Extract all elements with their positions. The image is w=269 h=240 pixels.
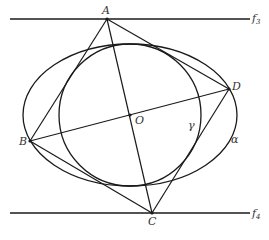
diagram-canvas: f3f4γαABCDO bbox=[0, 0, 269, 240]
line-label-f4: f4 bbox=[251, 207, 261, 221]
gamma-circle-label: γ bbox=[188, 119, 195, 132]
point-label-A: A bbox=[101, 4, 110, 17]
point-label-D: D bbox=[231, 80, 241, 93]
point-label-B: B bbox=[18, 135, 27, 148]
segment-CD bbox=[152, 89, 229, 213]
alpha-ellipse-label: α bbox=[231, 133, 239, 146]
segment-AD bbox=[107, 19, 229, 89]
point-label-O: O bbox=[135, 114, 144, 127]
point-A bbox=[105, 17, 108, 20]
line-label-f3: f3 bbox=[251, 12, 261, 26]
segment-BC bbox=[30, 141, 152, 213]
segment-AB bbox=[30, 19, 107, 141]
point-B bbox=[28, 139, 31, 142]
geometry-diagram: f3f4γαABCDO bbox=[0, 0, 269, 240]
point-O bbox=[128, 113, 131, 116]
point-label-C: C bbox=[148, 215, 157, 228]
point-D bbox=[227, 87, 230, 90]
